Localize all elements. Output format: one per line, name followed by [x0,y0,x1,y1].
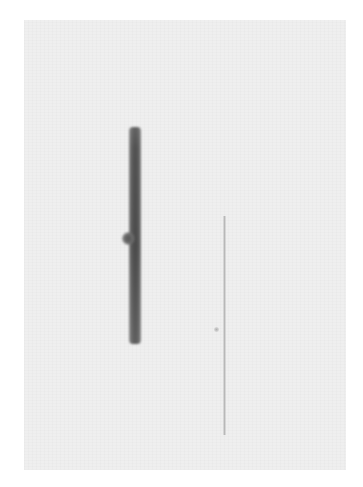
faint-lane-spot [214,327,219,332]
scan-panel [24,20,346,470]
faint-lane-band [223,216,226,435]
dark-lane-spot [122,232,135,245]
